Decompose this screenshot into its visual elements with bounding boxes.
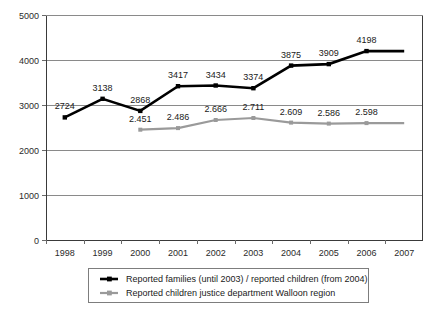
data-point-label: 2724	[55, 101, 75, 111]
data-point-marker	[251, 116, 255, 120]
data-point-marker	[214, 83, 218, 87]
data-point-label: 3417	[168, 70, 188, 80]
data-point-label: 3875	[281, 50, 301, 60]
data-point-marker	[214, 118, 218, 122]
data-point-marker	[365, 121, 369, 125]
x-axis-label: 1999	[93, 248, 113, 258]
data-point-marker	[364, 49, 368, 53]
x-axis-label: 2000	[130, 248, 150, 258]
data-point-marker	[176, 126, 180, 130]
x-axis-labels-group: 1998199920002001200220032004200520062007	[55, 248, 414, 258]
legend-swatch-marker	[107, 291, 112, 296]
data-point-label: 2.451	[129, 114, 152, 124]
data-point-marker	[289, 63, 293, 67]
y-axis-label: 3000	[19, 101, 39, 111]
x-axis-label: 2003	[243, 248, 263, 258]
x-axis-label: 2001	[168, 248, 188, 258]
data-point-marker	[138, 128, 142, 132]
data-point-label: 2.711	[242, 102, 264, 112]
legend-entry-label: Reported children justice department Wal…	[126, 288, 335, 298]
x-axis-label: 2005	[319, 248, 339, 258]
data-point-label: 2.666	[204, 104, 227, 114]
x-axis-label: 2002	[206, 248, 226, 258]
data-point-label: 2.486	[167, 112, 190, 122]
data-point-marker	[289, 121, 293, 125]
data-point-label: 3434	[206, 70, 226, 80]
y-axis-labels-group: 010002000300040005000	[19, 11, 39, 246]
data-point-marker	[63, 115, 67, 119]
data-point-marker	[251, 86, 255, 90]
y-axis-label: 0	[34, 236, 39, 246]
legend-entry-label: Reported families (until 2003) / reporte…	[126, 274, 368, 284]
y-axis-ticks-group	[42, 16, 46, 241]
series-reported-families-line	[65, 51, 404, 117]
y-axis-label: 2000	[19, 146, 39, 156]
chart-container: 010002000300040005000 199819992000200120…	[0, 0, 436, 315]
data-point-label: 2.586	[317, 108, 340, 118]
data-point-marker	[100, 97, 104, 101]
chart-legend: Reported families (until 2003) / reporte…	[89, 269, 369, 303]
data-point-marker	[176, 84, 180, 88]
data-point-label: 3374	[243, 72, 263, 82]
data-labels-group: 2724313828683417343433743875390941982.45…	[55, 35, 378, 124]
y-axis-label: 5000	[19, 11, 39, 21]
x-axis-label: 2006	[356, 248, 376, 258]
data-point-label: 4198	[356, 35, 376, 45]
series-layer	[63, 49, 405, 132]
y-axis-label: 4000	[19, 56, 39, 66]
data-point-marker	[327, 122, 331, 126]
data-point-label: 3909	[319, 48, 339, 58]
data-point-marker	[138, 109, 142, 113]
data-point-label: 2.609	[280, 107, 303, 117]
line-chart: 010002000300040005000 199819992000200120…	[0, 0, 436, 315]
legend-swatch-marker	[107, 277, 112, 282]
data-point-label: 2.598	[355, 107, 378, 117]
data-point-label: 3138	[93, 83, 113, 93]
x-axis-label: 2004	[281, 248, 301, 258]
gridlines-group	[46, 15, 423, 241]
x-axis-label: 2007	[394, 248, 414, 258]
x-axis-label: 1998	[55, 248, 75, 258]
data-point-label: 2868	[130, 95, 150, 105]
y-axis-label: 1000	[19, 191, 39, 201]
data-point-marker	[327, 62, 331, 66]
